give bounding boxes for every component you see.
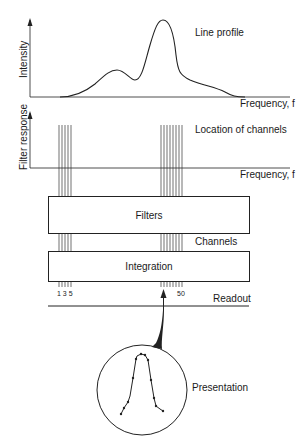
presentation-curve <box>120 353 164 415</box>
channel-number-50: 50 <box>177 290 185 297</box>
line-profile-title: Line profile <box>195 27 244 38</box>
intensity-axes <box>28 18 291 97</box>
filter-response-axis-label: Filter response <box>18 104 29 170</box>
integration-label: Integration <box>125 261 172 272</box>
readout-label: Readout <box>213 293 251 304</box>
frequency-axis-label-top: Frequency, f <box>240 98 295 109</box>
channel-numbers-left: 1 3 5 <box>57 290 73 297</box>
frequency-axis-label-filter: Frequency, f <box>240 169 295 180</box>
pointer-arrow <box>152 289 167 349</box>
location-of-channels-label: Location of channels <box>195 124 287 135</box>
channels-label: Channels <box>195 236 237 247</box>
integration-block: Integration <box>48 251 250 282</box>
presentation-label: Presentation <box>192 382 248 393</box>
filters-label: Filters <box>135 210 162 221</box>
intensity-axis-label: Intensity <box>18 41 29 78</box>
presentation-circle <box>97 345 187 435</box>
filters-block: Filters <box>48 196 250 234</box>
filter-axes <box>28 111 291 168</box>
